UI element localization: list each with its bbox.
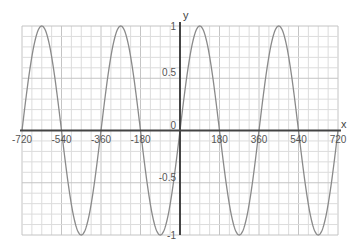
y-tick-label: -0.5 — [159, 172, 177, 183]
x-tick-label: 720 — [330, 134, 347, 145]
x-tick-label: -360 — [91, 134, 111, 145]
x-tick-label: 360 — [251, 134, 268, 145]
x-tick-label: -540 — [51, 134, 71, 145]
x-tick-label: -720 — [12, 134, 32, 145]
y-tick-label: 1 — [170, 21, 176, 32]
axes — [20, 22, 341, 235]
x-tick-label: 180 — [211, 134, 228, 145]
y-axis-label: y — [183, 9, 189, 21]
y-tick-label: -1 — [167, 230, 176, 241]
y-tick-label: 0 — [170, 120, 176, 131]
x-tick-label: 540 — [290, 134, 307, 145]
x-axis-label: x — [341, 118, 347, 130]
y-tick-label: 0.5 — [162, 67, 176, 78]
x-tick-label: -180 — [130, 134, 150, 145]
sine-chart: -720-540-360-180180360540720-1-0.500.51 … — [0, 0, 363, 250]
